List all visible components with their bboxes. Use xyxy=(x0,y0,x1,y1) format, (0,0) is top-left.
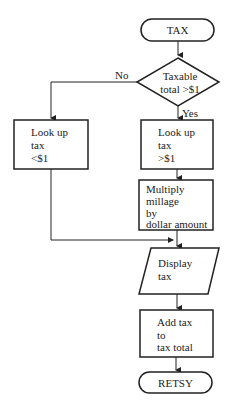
arrow-no-branch xyxy=(51,82,137,118)
start-label: TAX xyxy=(167,24,189,36)
lookup-low-line1: Look up xyxy=(31,126,68,138)
flowchart-diagram: TAX Taxable total >$1 No Yes Look up tax… xyxy=(0,0,239,403)
multiply-line4: dollar amount xyxy=(146,218,207,230)
add-line1: Add tax xyxy=(157,316,193,328)
decision-line2: total >$1 xyxy=(160,83,200,95)
multiply-box: Multiply millage by dollar amount xyxy=(139,180,213,230)
yes-label: Yes xyxy=(182,107,198,119)
lookup-high-line3: >$1 xyxy=(158,152,175,164)
end-label: RETSY xyxy=(158,377,193,389)
multiply-line2: millage xyxy=(146,195,179,207)
display-line2: tax xyxy=(158,270,172,282)
lookup-low-line3: <$1 xyxy=(31,152,48,164)
lookup-low-box: Look up tax <$1 xyxy=(14,120,88,169)
lookup-low-line2: tax xyxy=(31,139,45,151)
decision-diamond: Taxable total >$1 xyxy=(137,58,219,106)
add-line2: to xyxy=(157,329,166,341)
add-line3: tax total xyxy=(157,341,193,353)
no-label: No xyxy=(115,69,129,81)
end-terminal: RETSY xyxy=(139,372,212,393)
add-box: Add tax to tax total xyxy=(140,310,213,357)
lookup-high-line1: Look up xyxy=(158,126,195,138)
display-line1: Display xyxy=(158,257,193,269)
multiply-line1: Multiply xyxy=(146,183,185,195)
display-parallelogram: Display tax xyxy=(139,248,219,294)
lookup-high-line2: tax xyxy=(158,139,172,151)
lookup-high-box: Look up tax >$1 xyxy=(141,120,213,169)
start-terminal: TAX xyxy=(141,19,214,41)
decision-line1: Taxable xyxy=(163,70,198,82)
